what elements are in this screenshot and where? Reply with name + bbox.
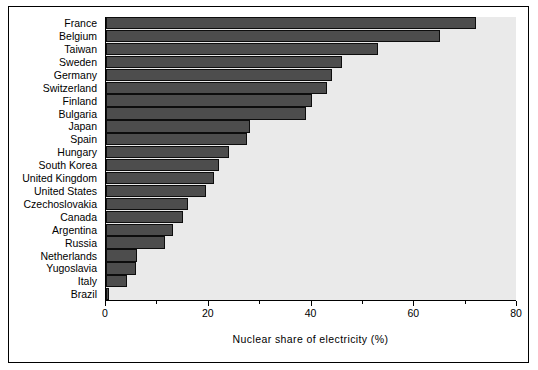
bar-row <box>106 120 516 132</box>
x-tick-minor <box>156 301 157 304</box>
y-axis-label-japan: Japan <box>68 120 97 132</box>
bar-row <box>106 107 516 119</box>
bar <box>106 133 247 145</box>
bar <box>106 30 440 42</box>
y-axis-label-bulgaria: Bulgaria <box>58 108 97 120</box>
y-axis-label-belgium: Belgium <box>59 30 97 42</box>
bar <box>106 69 332 81</box>
bar <box>106 275 127 287</box>
y-axis-label-switzerland: Switzerland <box>43 82 97 94</box>
bar <box>106 224 173 236</box>
x-tick-major <box>208 301 209 306</box>
y-axis-label-sweden: Sweden <box>59 56 97 68</box>
bar-row <box>106 275 516 287</box>
bar <box>106 211 183 223</box>
bar-row <box>106 17 516 29</box>
y-axis-label-canada: Canada <box>60 211 97 223</box>
bar-series <box>106 17 516 300</box>
x-tick-label: 80 <box>510 307 522 319</box>
chart-figure: FranceBelgiumTaiwanSwedenGermanySwitzerl… <box>0 0 538 370</box>
bar <box>106 120 250 132</box>
bar-row <box>106 69 516 81</box>
y-axis-label-france: France <box>64 17 97 29</box>
bar <box>106 249 137 261</box>
bar <box>106 172 214 184</box>
bar-row <box>106 249 516 261</box>
x-tick-label: 0 <box>102 307 108 319</box>
y-axis-label-yugoslavia: Yugoslavia <box>46 262 97 274</box>
y-axis-label-united-states: United States <box>34 185 97 197</box>
x-tick-label: 40 <box>305 307 317 319</box>
bar-row <box>106 82 516 94</box>
bar-row <box>106 236 516 248</box>
x-tick-major <box>413 301 414 306</box>
bar <box>106 17 476 29</box>
plot-area <box>105 17 516 301</box>
y-axis-label-south-korea: South Korea <box>39 159 97 171</box>
bar <box>106 185 206 197</box>
bar-row <box>106 43 516 55</box>
bar <box>106 82 327 94</box>
y-axis-label-hungary: Hungary <box>57 146 97 158</box>
x-tick-minor <box>362 301 363 304</box>
bar-row <box>106 262 516 274</box>
y-axis-label-finland: Finland <box>63 95 97 107</box>
bar-row <box>106 211 516 223</box>
bar <box>106 94 312 106</box>
bar <box>106 262 136 274</box>
y-axis-label-germany: Germany <box>54 69 97 81</box>
bar <box>106 159 219 171</box>
bar-row <box>106 198 516 210</box>
bar <box>106 146 229 158</box>
x-tick-major <box>516 301 517 306</box>
y-axis-label-brazil: Brazil <box>71 288 97 300</box>
bar-row <box>106 185 516 197</box>
bar-row <box>106 30 516 42</box>
x-axis-title: Nuclear share of electricity (%) <box>105 333 516 345</box>
bar-row <box>106 133 516 145</box>
y-axis-label-italy: Italy <box>78 275 97 287</box>
y-axis-label-taiwan: Taiwan <box>64 43 97 55</box>
x-tick-minor <box>465 301 466 304</box>
y-axis-label-czechoslovakia: Czechoslovakia <box>23 198 97 210</box>
x-tick-label: 20 <box>202 307 214 319</box>
y-axis-label-netherlands: Netherlands <box>40 250 97 262</box>
bar-row <box>106 146 516 158</box>
y-axis-label-spain: Spain <box>70 133 97 145</box>
bar-row <box>106 288 516 300</box>
y-axis-label-argentina: Argentina <box>52 224 97 236</box>
bar-row <box>106 224 516 236</box>
bar <box>106 107 306 119</box>
bar <box>106 288 109 300</box>
bar <box>106 198 188 210</box>
y-axis-label-russia: Russia <box>65 237 97 249</box>
x-tick-major <box>105 301 106 306</box>
bar-row <box>106 172 516 184</box>
x-tick-major <box>311 301 312 306</box>
x-tick-minor <box>259 301 260 304</box>
bar <box>106 56 342 68</box>
bar <box>106 236 165 248</box>
x-axis-tick-labels: 020406080 <box>0 307 538 321</box>
y-axis-label-united-kingdom: United Kingdom <box>22 172 97 184</box>
bar-row <box>106 94 516 106</box>
bar-row <box>106 159 516 171</box>
x-tick-label: 60 <box>407 307 419 319</box>
bar <box>106 43 378 55</box>
bar-row <box>106 56 516 68</box>
